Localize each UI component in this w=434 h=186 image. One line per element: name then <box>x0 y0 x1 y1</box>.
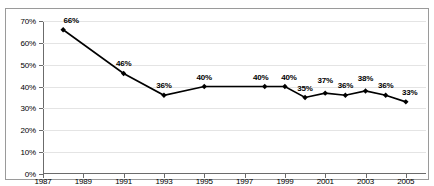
plot-area: 66%46%36%40%40%40%35%37%36%38%36%33% <box>43 21 426 174</box>
x-tick-label: 2001 <box>317 177 334 186</box>
data-point-marker <box>323 90 328 95</box>
line-series <box>43 21 426 174</box>
y-tick-label: 70% <box>21 17 36 26</box>
x-axis: 1987198919911993199519971999200120032005 <box>43 176 426 186</box>
y-tick-label: 40% <box>21 82 36 91</box>
x-tick-label: 2003 <box>357 177 374 186</box>
data-point-label: 37% <box>317 76 332 85</box>
data-point-marker <box>202 84 207 89</box>
data-point-marker <box>363 88 368 93</box>
x-tick-label: 1991 <box>115 177 132 186</box>
series-line <box>63 30 406 102</box>
y-axis: 0%10%20%30%40%50%60%70% <box>6 21 41 174</box>
y-tick-label: 10% <box>21 148 36 157</box>
data-point-marker <box>343 93 348 98</box>
chart-screenshot: 0%10%20%30%40%50%60%70% 66%46%36%40%40%4… <box>0 0 434 186</box>
data-point-label: 38% <box>358 74 373 83</box>
x-tick-label: 1999 <box>276 177 293 186</box>
data-point-marker <box>383 93 388 98</box>
data-point-label: 35% <box>297 84 312 93</box>
y-tick-label: 20% <box>21 126 36 135</box>
data-point-label: 36% <box>378 81 393 90</box>
data-point-marker <box>262 84 267 89</box>
x-tick-label: 1997 <box>236 177 253 186</box>
y-tick-label: 30% <box>21 104 36 113</box>
data-point-label: 40% <box>197 73 212 82</box>
data-point-label: 33% <box>402 88 417 97</box>
data-point-label: 40% <box>253 73 268 82</box>
x-tick-label: 1993 <box>155 177 172 186</box>
data-point-label: 40% <box>281 73 296 82</box>
data-point-marker <box>403 99 408 104</box>
data-point-label: 66% <box>63 16 78 25</box>
x-tick-label: 1995 <box>196 177 213 186</box>
data-point-label: 46% <box>116 59 131 68</box>
data-point-label: 36% <box>156 81 171 90</box>
chart-frame: 0%10%20%30%40%50%60%70% 66%46%36%40%40%4… <box>5 8 429 180</box>
x-tick-label: 2005 <box>397 177 414 186</box>
data-point-label: 36% <box>338 81 353 90</box>
y-tick-label: 60% <box>21 38 36 47</box>
x-tick-label: 1987 <box>35 177 52 186</box>
x-tick-label: 1989 <box>75 177 92 186</box>
y-tick-label: 50% <box>21 60 36 69</box>
